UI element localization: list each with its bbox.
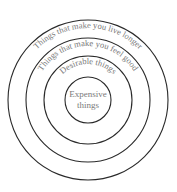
ring-third-label-text: Desirable things [57,56,119,76]
ring-third-label: Desirable things [57,56,119,76]
inner-label-line-1: Expensive [69,89,107,99]
diagram-canvas: Things that make you live longer Things … [0,0,177,192]
inner-label-line-2: things [77,100,100,110]
concentric-circles-diagram: Things that make you live longer Things … [0,0,177,192]
